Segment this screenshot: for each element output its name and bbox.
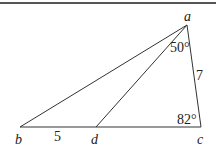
vertex-label-c: c: [197, 132, 204, 147]
length-label-bd: 5: [54, 129, 61, 144]
triangle-diagram: a b d c 5 7 50° 82°: [0, 0, 216, 153]
length-label-ac: 7: [196, 68, 203, 83]
vertex-label-b: b: [15, 132, 22, 147]
diagram-svg: a b d c 5 7 50° 82°: [0, 0, 216, 153]
segment-ab: [20, 25, 187, 127]
vertex-label-a: a: [184, 9, 191, 24]
vertex-label-d: d: [91, 132, 99, 147]
angle-label-c: 82°: [177, 112, 197, 127]
angle-label-dac: 50°: [170, 40, 190, 55]
